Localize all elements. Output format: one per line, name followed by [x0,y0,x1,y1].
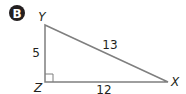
vertex-label-y: Y [38,10,47,24]
triangle-shape [45,25,168,82]
vertex-label-x: X [170,75,180,89]
vertex-label-z: Z [33,81,43,94]
side-label-zx: 12 [96,83,111,94]
triangle-outline [45,25,168,82]
side-label-yz: 5 [32,46,40,60]
badge-label: B [12,7,21,21]
side-label-xy: 13 [102,38,117,52]
badge: B [9,5,25,21]
right-angle-marker [45,74,53,82]
triangle-diagram: B Y Z X 5 13 12 [0,0,186,94]
